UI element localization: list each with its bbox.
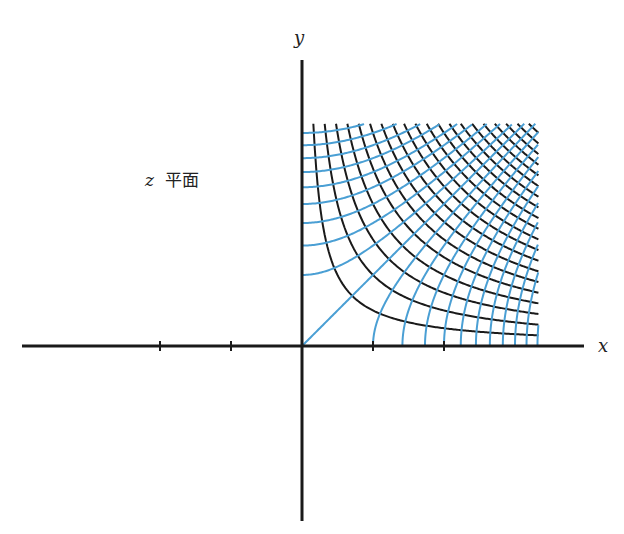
y-axis-label: y xyxy=(293,27,305,48)
x2-y2-curve xyxy=(302,124,364,133)
x2-y2-curve xyxy=(302,124,524,346)
x2-y2-curve xyxy=(537,325,538,346)
x2-minus-y2-hyperbolas xyxy=(302,124,538,346)
z-plane-diagram: y x z 平面 xyxy=(0,0,624,534)
plane-text: 平面 xyxy=(165,170,199,190)
plane-variable: z xyxy=(144,170,155,190)
x-axis-label: x xyxy=(598,335,608,356)
plane-label: z 平面 xyxy=(144,170,199,190)
